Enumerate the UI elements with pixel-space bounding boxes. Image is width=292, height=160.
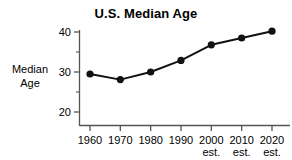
x-tick-sublabel: est. xyxy=(263,146,281,158)
data-point xyxy=(177,57,184,64)
data-point xyxy=(86,70,93,77)
x-tick-label: 1980 xyxy=(138,134,162,146)
x-tick-label: 1970 xyxy=(108,134,132,146)
chart-container: U.S. Median Age Median Age 203040 196019… xyxy=(0,0,292,160)
x-tick-label: 2010 xyxy=(229,134,253,146)
x-tick-sublabel: est. xyxy=(233,146,251,158)
y-tick-label: 40 xyxy=(59,26,71,38)
x-tick-label-group: 19601970198019902000est.2010est.2020est. xyxy=(78,134,284,158)
y-tick-group xyxy=(74,32,80,112)
y-tick-label-group: 203040 xyxy=(59,26,71,118)
x-tick-label: 1960 xyxy=(78,134,102,146)
y-tick-label: 20 xyxy=(59,106,71,118)
data-point xyxy=(238,34,245,41)
y-tick-label: 30 xyxy=(59,66,71,78)
data-point xyxy=(208,41,215,48)
plot-area: 203040 19601970198019902000est.2010est.2… xyxy=(0,0,292,160)
x-tick-label: 2020 xyxy=(260,134,284,146)
x-tick-label: 2000 xyxy=(199,134,223,146)
x-tick-label: 1990 xyxy=(169,134,193,146)
data-point xyxy=(268,28,275,35)
x-tick-group xyxy=(90,126,272,132)
data-point xyxy=(117,76,124,83)
data-point xyxy=(147,68,154,75)
x-tick-sublabel: est. xyxy=(202,146,220,158)
